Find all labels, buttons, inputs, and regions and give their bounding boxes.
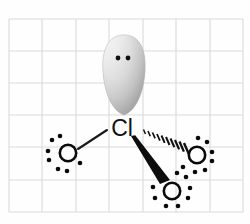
atom-oxygen-left [46,134,83,174]
lone-pair-dot [58,134,63,139]
plain-bond-line [78,130,107,149]
atom-label-o [189,147,205,163]
lone-pair-dot [126,56,131,61]
hash-mark [153,133,156,139]
lone-pair-dot [116,56,121,61]
atom-oxygen-right [181,136,215,175]
hash-mark [148,131,150,136]
lone-pair-dot [175,171,180,176]
lone-pair-dot [203,168,208,173]
diagram-svg: Cl [0,0,250,224]
hash-mark [157,134,160,141]
hash-mark [171,139,175,148]
lone-pair-dot [188,186,193,191]
hash-mark [144,130,146,135]
lone-pair-dot [181,165,186,170]
lone-pair-dot [46,149,51,154]
lone-pair-dot [47,158,52,163]
atom-chlorine: Cl [111,115,133,141]
lone-pair-dot [210,159,215,164]
lone-pair-dot [186,196,191,201]
lone-pair-dot [153,196,158,201]
bond-cl-oxygen-right [144,130,189,154]
lone-pair-dot [78,161,83,166]
lone-pair-dot [196,136,201,141]
atom-label-o [164,183,180,199]
lone-pair-dot [56,167,61,172]
lone-pair-dot [184,175,189,180]
hash-mark [162,136,165,143]
lone-pair-dot [164,204,169,209]
lone-pair-dot [176,204,181,209]
lone-pair-dot [50,138,55,143]
lone-pair-dot [65,169,70,174]
lone-pair-dot [151,185,156,190]
lone-pair-dot [193,170,198,175]
lone-pair-dot [205,140,210,145]
atom-label-cl: Cl [111,115,133,141]
bond-cl-oxygen-left [78,130,107,149]
hash-mark [166,137,170,145]
molecular-structure-diagram: Cl [0,0,250,224]
lone-pair-dot [210,150,215,155]
